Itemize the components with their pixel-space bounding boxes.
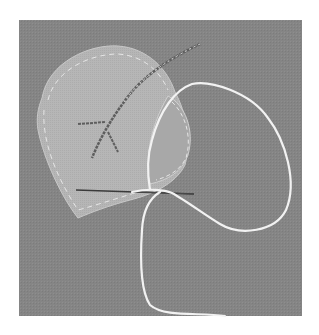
appliqué-photo xyxy=(0,0,319,335)
